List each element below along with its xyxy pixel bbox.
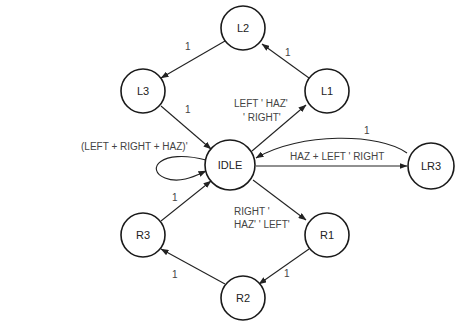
state-diagram: 1 1 1 LEFT ' HAZ' ' RIGHT' (LEFT + RIGHT… — [0, 0, 461, 335]
edge-label-idle-r1-line2: HAZ' ' LEFT' — [234, 219, 290, 230]
state-node-r1: R1 — [305, 213, 349, 257]
svg-text:L1: L1 — [321, 85, 333, 97]
state-node-l2: L2 — [221, 6, 265, 50]
edge-l2-to-l3: 1 — [161, 41, 225, 78]
edge-label-idle-r1-line1: RIGHT ' — [234, 206, 270, 217]
edge-r3-to-idle: 1 — [161, 181, 211, 221]
edge-label-r1-r2: 1 — [284, 268, 290, 279]
state-node-idle: IDLE — [205, 140, 255, 190]
edge-label-r3-idle: 1 — [172, 192, 178, 203]
edge-idle-to-lr3: HAZ + LEFT ' RIGHT — [256, 151, 407, 166]
edge-l1-to-l2: 1 — [262, 44, 309, 78]
svg-text:R3: R3 — [136, 229, 150, 241]
edge-label-r2-r3: 1 — [172, 269, 178, 280]
edge-label-idle-lr3: HAZ + LEFT ' RIGHT — [290, 151, 384, 162]
edge-label-l3-idle: 1 — [185, 104, 191, 115]
edge-r2-to-r3: 1 — [161, 249, 225, 284]
edge-label-lr3-idle: 1 — [364, 125, 370, 136]
state-node-l3: L3 — [121, 69, 165, 113]
svg-text:L3: L3 — [137, 85, 149, 97]
state-node-l1: L1 — [305, 69, 349, 113]
svg-text:R2: R2 — [236, 292, 250, 304]
edge-label-l1-l2: 1 — [285, 47, 291, 58]
edge-idle-self-loop: (LEFT + RIGHT + HAZ)' — [81, 141, 206, 180]
state-node-r2: R2 — [221, 276, 265, 320]
svg-text:LR3: LR3 — [421, 160, 441, 172]
svg-text:L2: L2 — [237, 22, 249, 34]
svg-text:IDLE: IDLE — [218, 159, 242, 171]
edge-label-idle-self: (LEFT + RIGHT + HAZ)' — [81, 141, 188, 152]
svg-text:R1: R1 — [320, 229, 334, 241]
edge-label-idle-l1-line1: LEFT ' HAZ' — [234, 98, 288, 109]
state-node-r3: R3 — [121, 213, 165, 257]
edge-label-l2-l3: 1 — [185, 41, 191, 52]
edge-label-idle-l1-line2: ' RIGHT' — [243, 112, 281, 123]
edge-idle-to-r1: RIGHT ' HAZ' ' LEFT' — [234, 180, 306, 230]
edge-r1-to-r2: 1 — [259, 249, 309, 284]
state-node-lr3: LR3 — [408, 143, 454, 189]
